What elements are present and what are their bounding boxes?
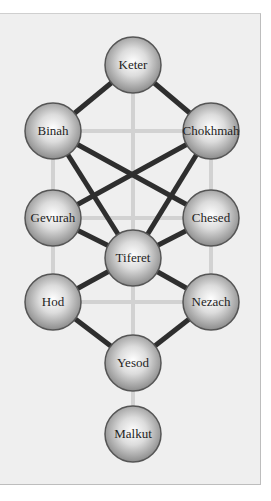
node-label: Keter — [119, 57, 149, 72]
node-gevurah: Gevurah — [25, 190, 81, 246]
node-hod: Hod — [25, 274, 81, 330]
node-binah: Binah — [25, 103, 81, 159]
node-label: Binah — [37, 123, 69, 138]
node-chokhmah: Chokhmah — [182, 103, 240, 159]
node-nezach: Nezach — [183, 274, 239, 330]
node-label: Gevurah — [31, 210, 76, 225]
node-yesod: Yesod — [105, 335, 161, 391]
node-label: Chokhmah — [182, 123, 240, 138]
node-label: Nezach — [192, 294, 231, 309]
node-chesed: Chesed — [183, 190, 239, 246]
node-label: Yesod — [117, 355, 149, 370]
node-tiferet: Tiferet — [105, 230, 161, 286]
node-malkut: Malkut — [105, 406, 161, 462]
node-keter: Keter — [105, 37, 161, 93]
node-label: Malkut — [114, 426, 152, 441]
tree-of-life-diagram: KeterBinahChokhmahGevurahChesedTiferetHo… — [0, 0, 271, 501]
node-label: Chesed — [192, 210, 231, 225]
node-label: Tiferet — [116, 250, 151, 265]
node-label: Hod — [42, 294, 65, 309]
